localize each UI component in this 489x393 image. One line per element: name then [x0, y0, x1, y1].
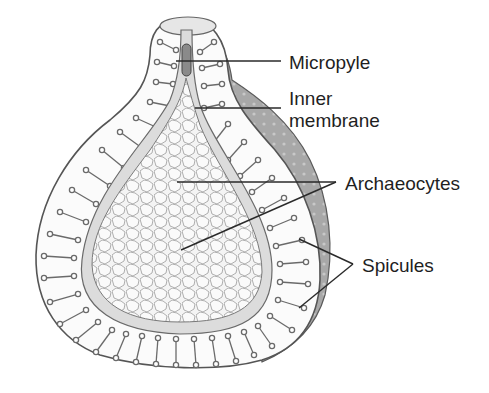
label-archaeocytes: Archaeocytes [345, 173, 460, 194]
label-inner-membrane-line1: Inner [289, 88, 332, 109]
label-inner-membrane-line2: membrane [289, 110, 380, 131]
label-micropyle: Micropyle [289, 52, 370, 73]
gemmule-diagram: Micropyle Inner membrane Archaeocytes Sp… [0, 0, 489, 393]
micropyle-canal [182, 44, 191, 76]
label-spicules: Spicules [362, 255, 434, 276]
gemmule-illustration [0, 0, 489, 393]
